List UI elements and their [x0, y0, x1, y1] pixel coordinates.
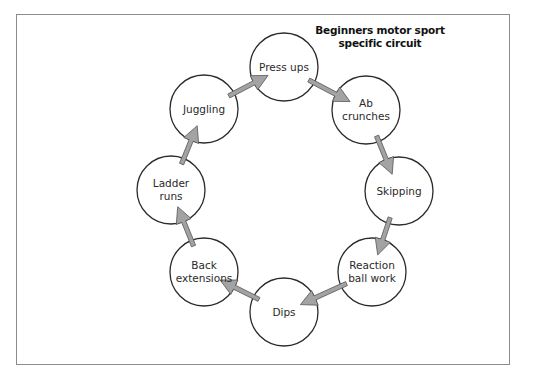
- node-label-juggling: Juggling: [183, 103, 225, 116]
- node-label-line-1: Dips: [272, 306, 295, 319]
- node-label-line-1: Press ups: [259, 61, 309, 74]
- node-label-line-1: Juggling: [183, 103, 225, 116]
- node-label-line-2: ball work: [348, 272, 396, 285]
- node-label-line-2: crunches: [342, 110, 390, 123]
- node-label-reaction-ball-work: Reactionball work: [348, 259, 396, 285]
- node-label-line-1: Ab: [342, 97, 390, 110]
- node-label-skipping: Skipping: [376, 185, 421, 198]
- node-label-press-ups: Press ups: [259, 61, 309, 74]
- node-label-ladder-runs: Ladderruns: [153, 177, 189, 203]
- node-label-line-1: Skipping: [376, 185, 421, 198]
- node-label-line-1: Ladder: [153, 177, 189, 190]
- node-label-dips: Dips: [272, 306, 295, 319]
- node-label-ab-crunches: Abcrunches: [342, 97, 390, 123]
- node-label-line-2: runs: [153, 190, 189, 203]
- node-label-line-2: extensions: [176, 272, 233, 285]
- node-label-line-1: Back: [176, 259, 233, 272]
- circuit-diagram: [0, 0, 553, 377]
- node-label-line-1: Reaction: [348, 259, 396, 272]
- node-label-back-extensions: Backextensions: [176, 259, 233, 285]
